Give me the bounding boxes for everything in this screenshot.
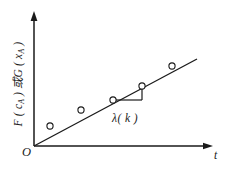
figure-canvas: F ( cA ) 或G ( xA ) t O λ( k ) — [0, 0, 231, 173]
y-label-subscript-2: A — [17, 49, 26, 54]
x-axis-arrowhead — [203, 143, 213, 150]
y-label-subscript-1: A — [17, 99, 26, 104]
y-axis-arrowhead — [31, 11, 38, 21]
data-point — [169, 63, 175, 69]
origin-label: O — [22, 146, 31, 159]
y-label-part-2: ) 或G ( x — [12, 54, 24, 99]
data-point — [78, 107, 84, 113]
y-label-part-3: ) — [12, 42, 24, 49]
y-label-part-1: F ( c — [12, 104, 24, 127]
data-point — [110, 97, 116, 103]
data-point — [139, 83, 145, 89]
slope-label: λ( k ) — [112, 113, 138, 125]
data-point — [47, 123, 53, 129]
y-axis-label: F ( cA ) 或G ( xA ) — [13, 24, 25, 144]
x-axis-label: t — [214, 150, 217, 162]
plot-area — [0, 0, 231, 173]
